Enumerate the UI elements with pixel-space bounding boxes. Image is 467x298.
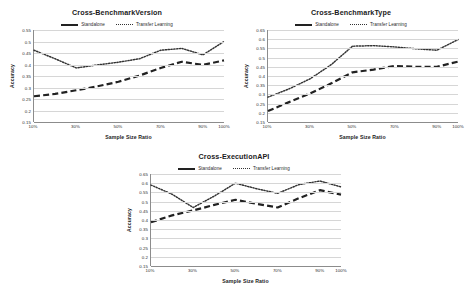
- gridline: [268, 94, 458, 95]
- y-axis-tick-label: 0.65: [139, 172, 148, 177]
- x-axis-tick-label: 90%: [432, 124, 441, 129]
- y-axis-tick-label: 0.25: [22, 97, 31, 102]
- y-axis-tick-label: 0.35: [256, 83, 265, 88]
- chart-panel-cross-benchmarkversion: Cross-BenchmarkVersion Standalone Transf…: [6, 8, 228, 150]
- x-axis-tick-label: 10%: [263, 124, 272, 129]
- series-line-standalone: [151, 190, 341, 222]
- x-axis-tick-label: 100%: [452, 124, 463, 129]
- y-axis-tick-label: 0.45: [139, 208, 148, 213]
- legend-entry-transfer-learning: Transfer Learning: [350, 22, 407, 27]
- y-axis-ticks: 0.150.20.250.30.350.40.450.50.550.60.65: [249, 30, 266, 122]
- x-axis-tick-label: 70%: [156, 124, 165, 129]
- gridline: [151, 238, 341, 239]
- y-axis-tick-label: 0.25: [256, 101, 265, 106]
- gridline: [268, 67, 458, 68]
- series-line-transfer-learning: [151, 181, 341, 208]
- y-axis-tick-label: 0.4: [142, 218, 148, 223]
- y-axis-tick-label: 0.55: [22, 28, 31, 33]
- gridline: [151, 229, 341, 230]
- plot-area: Accuracy 0.150.20.250.30.350.40.450.50.5…: [6, 30, 228, 148]
- chart-panel-cross-executionapi: Cross-ExecutionAPI Standalone Transfer L…: [123, 152, 345, 294]
- y-axis-tick-label: 0.55: [256, 46, 265, 51]
- legend-label: Standalone: [315, 22, 339, 27]
- legend-entry-transfer-learning: Transfer Learning: [116, 22, 173, 27]
- y-axis-tick-label: 0.5: [142, 199, 148, 204]
- x-axis-line: [151, 266, 341, 267]
- y-axis-tick-label: 0.55: [139, 190, 148, 195]
- y-axis-tick-label: 0.35: [139, 227, 148, 232]
- gridline: [151, 257, 341, 258]
- y-axis-ticks: 0.150.20.250.30.350.40.450.50.55: [15, 30, 32, 122]
- gridline: [268, 76, 458, 77]
- chart-title: Cross-BenchmarkType: [240, 8, 462, 18]
- y-axis-tick-label: 0.65: [256, 28, 265, 33]
- x-axis-tick-label: 90%: [315, 268, 324, 273]
- gridline: [268, 85, 458, 86]
- y-axis-tick-label: 0.4: [25, 62, 31, 67]
- gridline: [34, 53, 224, 54]
- gridline: [151, 211, 341, 212]
- y-axis-tick-label: 0.5: [25, 39, 31, 44]
- y-axis-tick-label: 0.35: [22, 74, 31, 79]
- chart-title: Cross-BenchmarkVersion: [6, 8, 228, 18]
- legend-swatch-dotted-icon: [350, 24, 367, 25]
- x-axis-tick-label: 30%: [188, 268, 197, 273]
- gridline: [34, 111, 224, 112]
- x-axis-tick-label: 10%: [29, 124, 38, 129]
- plot-canvas: [267, 30, 458, 122]
- gridline: [268, 39, 458, 40]
- y-axis-tick-label: 0.3: [25, 85, 31, 90]
- chart-title: Cross-ExecutionAPI: [123, 152, 345, 162]
- legend-label: Transfer Learning: [253, 166, 290, 171]
- y-axis-ticks: 0.150.20.250.30.350.40.450.50.550.60.65: [132, 174, 149, 266]
- y-axis-tick-label: 0.45: [22, 51, 31, 56]
- figure-canvas: Cross-BenchmarkVersion Standalone Transf…: [0, 0, 467, 298]
- gridline: [268, 58, 458, 59]
- x-axis-ticks: 10%30%50%70%90%100%: [150, 268, 341, 278]
- x-axis-tick-label: 100%: [218, 124, 229, 129]
- x-axis-line: [268, 122, 458, 123]
- y-axis-tick-label: 0.25: [139, 245, 148, 250]
- x-axis-ticks: 10%30%50%70%90%100%: [267, 124, 458, 134]
- y-axis-tick-label: 0.4: [259, 74, 265, 79]
- legend-swatch-dotted-icon: [233, 168, 250, 169]
- x-axis-title: Sample Size Ratio: [33, 134, 224, 140]
- x-axis-tick-label: 50%: [347, 124, 356, 129]
- y-axis-tick-label: 0.3: [259, 92, 265, 97]
- legend-entry-transfer-learning: Transfer Learning: [233, 166, 290, 171]
- x-axis-tick-label: 30%: [71, 124, 80, 129]
- y-axis-tick-label: 0.45: [256, 64, 265, 69]
- x-axis-tick-label: 50%: [113, 124, 122, 129]
- legend-label: Transfer Learning: [136, 22, 173, 27]
- gridline: [34, 42, 224, 43]
- legend-swatch-dashed-icon: [178, 168, 195, 170]
- gridline: [34, 76, 224, 77]
- x-axis-tick-label: 90%: [198, 124, 207, 129]
- y-axis-tick-label: 0.2: [142, 254, 148, 259]
- legend-entry-standalone: Standalone: [61, 22, 105, 27]
- gridline: [151, 192, 341, 193]
- x-axis-line: [34, 122, 224, 123]
- chart-legend: Standalone Transfer Learning: [240, 19, 462, 30]
- chart-legend: Standalone Transfer Learning: [123, 163, 345, 174]
- y-axis-tick-label: 0.5: [259, 55, 265, 60]
- y-axis-tick-label: 0.6: [142, 181, 148, 186]
- series-line-standalone: [34, 60, 224, 96]
- plot-area: Accuracy 0.150.20.250.30.350.40.450.50.5…: [240, 30, 462, 148]
- gridline: [34, 99, 224, 100]
- legend-swatch-dashed-icon: [295, 24, 312, 26]
- plot-canvas: [150, 174, 341, 266]
- gridline: [268, 104, 458, 105]
- gridline: [151, 183, 341, 184]
- x-axis-title: Sample Size Ratio: [150, 278, 341, 284]
- y-axis-tick-label: 0.2: [259, 110, 265, 115]
- x-axis-tick-label: 30%: [305, 124, 314, 129]
- x-axis-tick-label: 10%: [146, 268, 155, 273]
- legend-label: Transfer Learning: [370, 22, 407, 27]
- gridline: [151, 248, 341, 249]
- y-axis-tick-label: 0.6: [259, 37, 265, 42]
- x-axis-title: Sample Size Ratio: [267, 134, 458, 140]
- plot-area: Accuracy 0.150.20.250.30.350.40.450.50.5…: [123, 174, 345, 292]
- gridline: [268, 113, 458, 114]
- gridline: [268, 30, 458, 31]
